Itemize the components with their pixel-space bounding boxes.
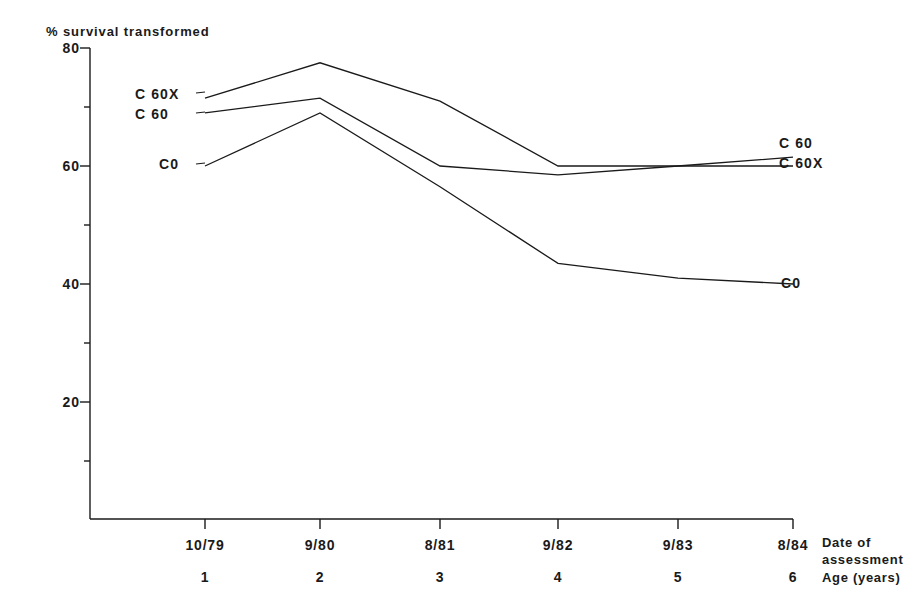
age-label-5: 5 [638, 569, 718, 585]
data-series-layer [205, 63, 793, 284]
age-label-4: 4 [518, 569, 598, 585]
x-tick-label-4: 9/82 [518, 537, 598, 553]
x-tick-label-2: 9/80 [280, 537, 360, 553]
series-line-c60 [205, 98, 793, 175]
x-axis-caption-date-line2: assessment [822, 551, 903, 568]
x-tick-label-3: 8/81 [400, 537, 480, 553]
series-line-c60x [205, 63, 793, 166]
x-tick-label-5: 9/83 [638, 537, 718, 553]
x-tick-label-6: 8/84 [753, 537, 833, 553]
x-axis-ticks [205, 519, 793, 529]
series-label-right-c60x: C 60X [779, 155, 823, 171]
series-label-left-c60: C 60 [135, 106, 169, 122]
age-label-2: 2 [280, 569, 360, 585]
series-label-left-c60x: C 60X [135, 86, 179, 102]
age-label-6: 6 [753, 569, 833, 585]
x-axis-caption-age: Age (years) [822, 569, 901, 586]
chart-page: % survival transformed 80 60 40 20 [0, 0, 921, 611]
series-label-left-c0: C0 [159, 156, 179, 172]
x-tick-label-1: 10/79 [165, 537, 245, 553]
series-line-c0 [205, 113, 793, 284]
leader-lines [196, 92, 205, 164]
series-label-right-c0: C0 [781, 275, 801, 291]
age-label-1: 1 [165, 569, 245, 585]
age-label-3: 3 [400, 569, 480, 585]
x-axis-caption-date-line1: Date of [822, 534, 871, 551]
series-label-right-c60: C 60 [779, 135, 813, 151]
